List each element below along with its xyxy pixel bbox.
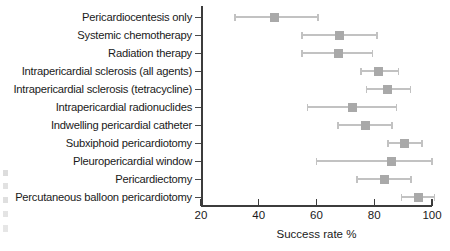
data-point-marker [335, 31, 344, 40]
data-point-marker [380, 175, 389, 184]
ci-upper-cap [317, 14, 318, 21]
ci-lower-cap [401, 194, 402, 201]
x-tick-label: 100 [412, 209, 450, 221]
ci-lower-cap [234, 14, 235, 21]
data-point-marker [414, 193, 423, 202]
category-label: Pericardiocentesis only [0, 8, 192, 26]
x-tick-label: 60 [297, 209, 337, 221]
category-label: Intrapericardial radionuclides [0, 98, 192, 116]
x-tick-mark [258, 199, 259, 206]
ci-upper-cap [372, 50, 373, 57]
x-tick-label: 20 [181, 209, 221, 221]
ci-upper-cap [410, 176, 411, 183]
category-label: Intrapericardial sclerosis (tetracycline… [0, 80, 192, 98]
category-label: Indwelling pericardial catheter [0, 116, 192, 134]
data-point-marker [374, 67, 383, 76]
ci-upper-cap [410, 86, 411, 93]
ci-lower-cap [366, 86, 367, 93]
data-point-marker [383, 85, 392, 94]
category-label: Intrapericardial sclerosis (all agents) [0, 62, 192, 80]
ci-lower-cap [307, 104, 308, 111]
data-point-marker [348, 103, 357, 112]
ci-upper-cap [398, 68, 399, 75]
category-label: Systemic chemotherapy [0, 26, 192, 44]
category-label: Percutaneous balloon pericardiotomy [0, 188, 192, 206]
ci-upper-cap [421, 140, 422, 147]
x-tick-mark [316, 199, 317, 206]
x-tick-mark [374, 199, 375, 206]
ci-upper-cap [391, 122, 392, 129]
data-point-marker [387, 157, 396, 166]
ci-upper-cap [376, 32, 377, 39]
x-tick-mark [431, 199, 432, 206]
ci-upper-cap [396, 104, 397, 111]
ci-upper-cap [434, 194, 435, 201]
category-label: Pericardiectomy [0, 170, 192, 188]
confidence-interval-line [317, 160, 433, 161]
x-tick-mark [200, 199, 201, 206]
ci-lower-cap [301, 32, 302, 39]
data-point-marker [270, 13, 279, 22]
ci-lower-cap [316, 158, 317, 165]
ci-lower-cap [356, 176, 357, 183]
ci-lower-cap [387, 140, 388, 147]
data-point-marker [361, 121, 370, 130]
y-axis-line [201, 6, 203, 206]
x-axis-title: Success rate % [201, 228, 432, 240]
category-label: Radiation therapy [0, 44, 192, 62]
x-tick-label: 80 [354, 209, 394, 221]
category-label: Subxiphoid pericardiotomy [0, 134, 192, 152]
ci-lower-cap [337, 122, 338, 129]
x-tick-label: 40 [239, 209, 279, 221]
forest-plot: Pericardiocentesis onlySystemic chemothe… [0, 0, 450, 251]
plot-area: 20406080100 Success rate % [201, 0, 450, 251]
ci-lower-cap [301, 50, 302, 57]
data-point-marker [400, 139, 409, 148]
ci-upper-cap [431, 158, 432, 165]
ci-lower-cap [360, 68, 361, 75]
category-label: Pleuropericardial window [0, 152, 192, 170]
data-point-marker [334, 49, 343, 58]
